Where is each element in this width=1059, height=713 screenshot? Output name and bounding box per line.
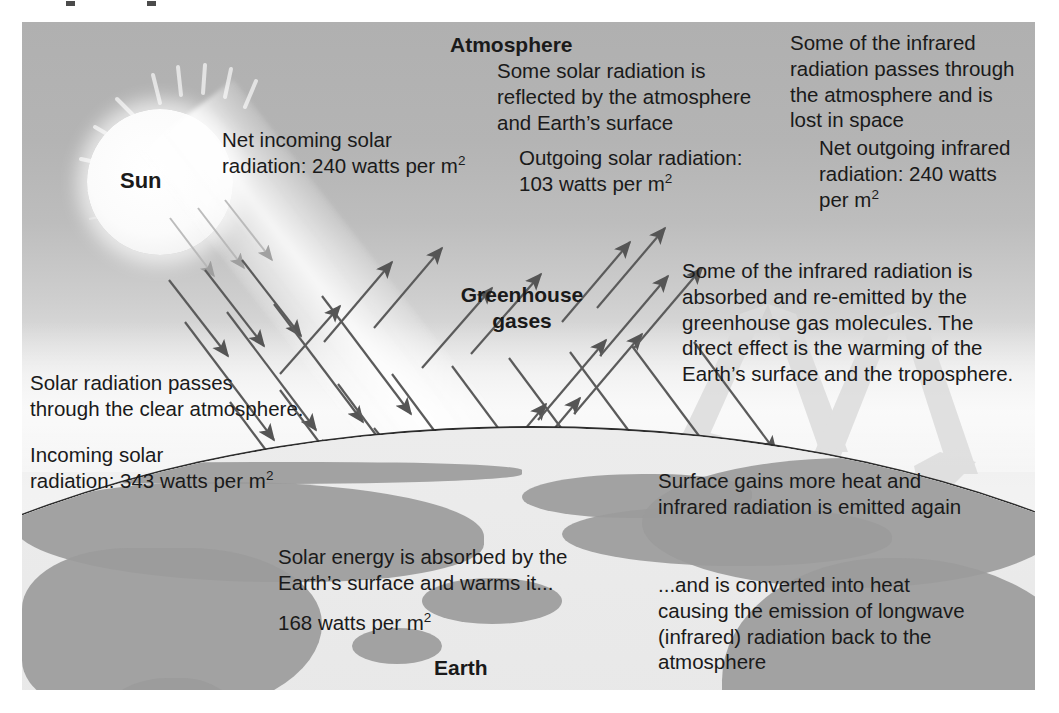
absorbed-surface-line2: Earth’s surface and warms it... [278,570,628,596]
page-canvas: Sun [0,0,1059,713]
passes-line4: lost in space [790,107,1035,133]
label-greenhouse-gases: Greenhouse gases [437,282,607,335]
greenhouse-effect-figure: Sun [22,22,1035,690]
greenhouse-line2: gases [437,308,607,334]
clear-atm-line2: through the clear atmosphere. [30,396,360,422]
outgoing-solar-line2: 103 watts per m2 [519,171,819,197]
absorbed-line4: direct effect is the warming of the [682,335,1035,361]
label-reflected-solar: Some solar radiation is reflected by the… [497,58,797,135]
page-crumb [66,1,75,6]
clear-atm-line1: Solar radiation passes [30,370,360,396]
label-atmosphere: Atmosphere [450,32,573,58]
passes-line3: the atmosphere and is [790,82,1035,108]
converted-line4: atmosphere [658,649,1035,675]
incoming-solar-line2: radiation: 343 watts per m2 [30,468,370,494]
label-outgoing-solar: Outgoing solar radiation: 103 watts per … [519,145,819,197]
label-surface-gains: Surface gains more heat and infrared rad… [658,468,1028,520]
absorbed-line5: Earth’s surface and the troposphere. [682,361,1035,387]
label-earth: Earth [434,655,488,681]
outgoing-solar-line1: Outgoing solar radiation: [519,145,819,171]
reflected-line3: and Earth’s surface [497,110,797,136]
surface-gains-line2: infrared radiation is emitted again [658,494,1028,520]
label-converted-heat: ...and is converted into heat causing th… [658,572,1035,675]
absorbed-line2: absorbed and re-emitted by the [682,284,1035,310]
passes-line2: radiation passes through [790,56,1035,82]
landmass [22,548,322,690]
absorbed-line3: greenhouse gas molecules. The [682,310,1035,336]
reflected-line2: reflected by the atmosphere [497,84,797,110]
converted-line3: (infrared) radiation back to the [658,624,1035,650]
label-clear-atmosphere: Solar radiation passes through the clear… [30,370,360,422]
greenhouse-line1: Greenhouse [437,282,607,308]
net-outgoing-line2: radiation: 240 watts [819,161,1035,187]
absorbed-line1: Some of the infrared radiation is [682,258,1035,284]
net-incoming-line2: radiation: 240 watts per m2 [222,153,542,179]
net-outgoing-line1: Net outgoing infrared [819,135,1035,161]
label-incoming-solar: Incoming solar radiation: 343 watts per … [30,442,370,494]
reflected-line1: Some solar radiation is [497,58,797,84]
page-crumb [147,1,156,6]
passes-line1: Some of the infrared [790,30,1035,56]
label-net-incoming-solar: Net incoming solar radiation: 240 watts … [222,127,542,179]
absorbed-surface-line3: 168 watts per m2 [278,610,628,636]
converted-line1: ...and is converted into heat [658,572,1035,598]
converted-line2: causing the emission of longwave [658,598,1035,624]
incoming-solar-line1: Incoming solar [30,442,370,468]
label-absorbed-reemitted: Some of the infrared radiation is absorb… [682,258,1035,387]
label-passes-through: Some of the infrared radiation passes th… [790,30,1035,133]
surface-gains-line1: Surface gains more heat and [658,468,1028,494]
net-incoming-line1: Net incoming solar [222,127,542,153]
net-outgoing-line3: per m2 [819,187,1035,213]
absorbed-surface-line1: Solar energy is absorbed by the [278,544,628,570]
label-net-outgoing-infrared: Net outgoing infrared radiation: 240 wat… [819,135,1035,212]
label-absorbed-by-surface: Solar energy is absorbed by the Earth’s … [278,544,628,635]
